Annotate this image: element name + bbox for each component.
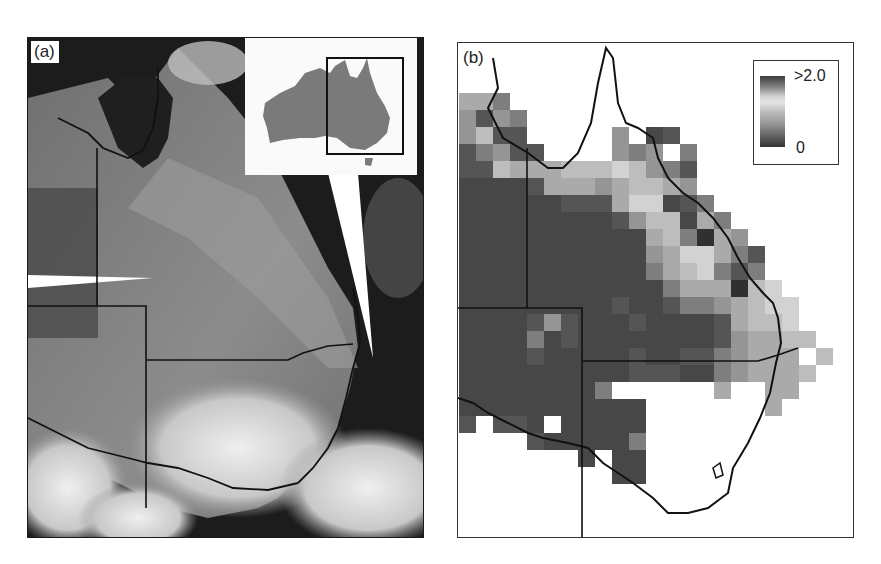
heatmap-cell [680,263,697,280]
heatmap-cell [561,348,578,365]
heatmap-cell [765,280,782,297]
panel-label-b: (b) [463,49,484,66]
heatmap-cell [459,348,476,365]
heatmap-cell [595,297,612,314]
heatmap-cell [510,382,527,399]
heatmap-cell [527,416,544,433]
heatmap-cell [595,365,612,382]
heatmap-cell [714,212,731,229]
heatmap-cell [459,314,476,331]
heatmap-cell [527,263,544,280]
heatmap-cell [459,212,476,229]
heatmap-cell [629,195,646,212]
heatmap-cell [714,331,731,348]
heatmap-panel: (b) >2.0 0 [457,42,854,538]
heatmap-cell [714,314,731,331]
australia-locator-map [245,38,417,175]
heatmap-cell [612,127,629,144]
heatmap-cell [561,382,578,399]
heatmap-cell [544,280,561,297]
heatmap-cell [510,365,527,382]
heatmap-cell [493,212,510,229]
heatmap-cell [578,297,595,314]
heatmap-cell [561,280,578,297]
heatmap-cell [629,297,646,314]
heatmap-cell [544,212,561,229]
heatmap-cell [680,246,697,263]
heatmap-cell [612,246,629,263]
heatmap-cell [697,229,714,246]
heatmap-cell [646,246,663,263]
heatmap-cell [629,365,646,382]
heatmap-cell [595,212,612,229]
heatmap-cell [476,314,493,331]
heatmap-cell [646,212,663,229]
heatmap-cell [476,348,493,365]
heatmap-cell [612,212,629,229]
panel-label-a: (a) [31,41,59,63]
heatmap-cell [527,314,544,331]
heatmap-cell [629,399,646,416]
heatmap-cell [510,314,527,331]
heatmap-cell [595,348,612,365]
heatmap-cell [510,263,527,280]
heatmap-cell [578,365,595,382]
heatmap-cell [663,195,680,212]
heatmap-cell [612,195,629,212]
heatmap-cell [510,110,527,127]
heatmap-cell [595,433,612,450]
heatmap-cell [816,348,833,365]
heatmap-cell [578,382,595,399]
heatmap-cell [697,212,714,229]
heatmap-cell [527,246,544,263]
heatmap-cell [680,161,697,178]
heatmap-cell [578,178,595,195]
heatmap-cell [459,161,476,178]
heatmap-cell [697,331,714,348]
heatmap-cell [595,331,612,348]
heatmap-cell [476,280,493,297]
heatmap-cell [527,229,544,246]
heatmap-cell [612,365,629,382]
heatmap-cell [697,246,714,263]
heatmap-cell [561,297,578,314]
heatmap-cell [476,127,493,144]
heatmap-cell [629,178,646,195]
heatmap-cell [493,365,510,382]
heatmap-cell [646,314,663,331]
heatmap-cell [731,280,748,297]
heatmap-cell [493,263,510,280]
heatmap-cell [527,280,544,297]
heatmap-cell [510,161,527,178]
heatmap-cell [612,348,629,365]
heatmap-cell [561,212,578,229]
heatmap-cell [476,382,493,399]
heatmap-cell [595,229,612,246]
heatmap-cell [527,212,544,229]
heatmap-cell [748,331,765,348]
heatmap-cell [544,297,561,314]
heatmap-cell [663,348,680,365]
heatmap-cell [459,178,476,195]
heatmap-cell [459,110,476,127]
heatmap-cell [646,178,663,195]
heatmap-cell [799,365,816,382]
heatmap-cell [578,314,595,331]
heatmap-cell [561,263,578,280]
heatmap-cell [459,365,476,382]
heatmap-cell [544,195,561,212]
heatmap-cell [680,348,697,365]
heatmap-cell [646,280,663,297]
heatmap-cell [612,399,629,416]
heatmap-cell [493,297,510,314]
heatmap-cell [782,365,799,382]
heatmap-cell [629,433,646,450]
heatmap-cell [612,297,629,314]
heatmap-cell [680,365,697,382]
australia-locator-inset [245,38,417,175]
heatmap-cell [680,331,697,348]
heatmap-cell [629,416,646,433]
heatmap-cell [493,399,510,416]
heatmap-cell [544,263,561,280]
heatmap-cell [595,178,612,195]
